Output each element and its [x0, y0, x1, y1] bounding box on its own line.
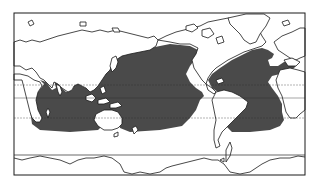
world-map — [0, 0, 320, 190]
map-canvas — [0, 0, 320, 190]
arctic-archipelago-3 — [216, 36, 224, 44]
arctic-island-2 — [80, 22, 86, 26]
